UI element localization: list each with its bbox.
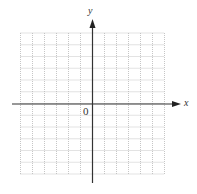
x-axis <box>12 101 181 107</box>
x-axis-arrow-icon <box>172 101 181 107</box>
x-axis-label: x <box>184 98 188 108</box>
y-axis <box>90 19 96 183</box>
coordinate-plane <box>0 0 197 194</box>
origin-label: 0 <box>83 106 89 117</box>
y-axis-arrow-icon <box>90 19 96 28</box>
y-axis-label: y <box>88 6 92 16</box>
